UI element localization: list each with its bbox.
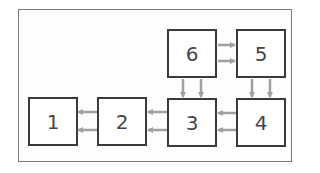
node-5: 5	[236, 29, 286, 78]
node-3: 3	[167, 98, 217, 147]
node-5-label: 5	[255, 42, 268, 66]
node-4-label: 4	[255, 111, 268, 135]
node-1: 1	[28, 97, 78, 146]
node-6-label: 6	[186, 42, 199, 66]
node-1-label: 1	[47, 110, 60, 134]
node-2-label: 2	[116, 110, 129, 134]
node-3-label: 3	[186, 111, 199, 135]
node-4: 4	[236, 98, 286, 147]
node-6: 6	[167, 29, 217, 78]
node-2: 2	[97, 97, 147, 146]
